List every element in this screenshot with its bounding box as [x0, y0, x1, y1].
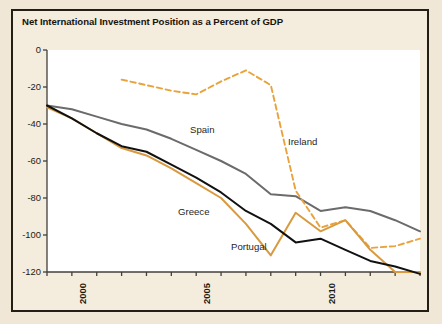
y-axis-tick-label: -20: [7, 81, 41, 92]
chart-figure: Net International Investment Position as…: [0, 0, 442, 324]
series-line-ireland: [122, 70, 420, 248]
series-line-spain: [47, 106, 420, 232]
y-axis-tick-label: 0: [7, 44, 41, 55]
x-axis-tick-label: 2010: [326, 283, 337, 304]
y-axis-tick-label: -40: [7, 118, 41, 129]
y-axis-tick-label: -100: [7, 229, 41, 240]
y-axis-tick-label: -60: [7, 155, 41, 166]
series-label-greece: Greece: [178, 206, 209, 217]
x-axis-tick-label: 2005: [201, 283, 212, 304]
y-axis-tick-label: -80: [7, 192, 41, 203]
series-label-portugal: Portugal: [231, 241, 267, 252]
y-axis-tick-label: -120: [7, 266, 41, 277]
series-label-spain: Spain: [190, 124, 215, 135]
series-label-ireland: Ireland: [288, 136, 317, 147]
plot-svg: [0, 0, 442, 324]
x-axis-tick-label: 2000: [77, 283, 88, 304]
